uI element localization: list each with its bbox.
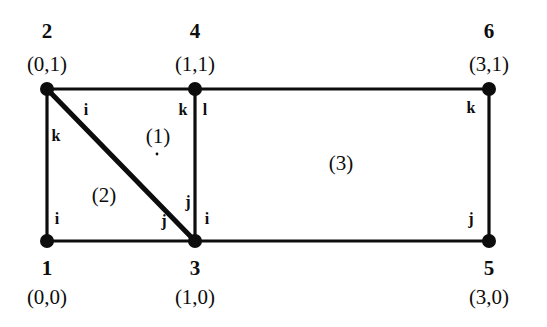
corner-node-label-k-el1: k (179, 102, 188, 118)
corner-node-label-j-el2: j (161, 213, 166, 229)
mesh-canvas (0, 0, 547, 327)
element-label-2: (2) (92, 185, 117, 206)
node-coordinate-3: (1,0) (175, 287, 215, 308)
node-dot (40, 234, 54, 248)
corner-node-label-i-el1: i (84, 102, 88, 118)
node-number-6: 6 (484, 21, 495, 42)
node-coordinate-2: (0,1) (27, 54, 67, 75)
page-speck-group (156, 153, 159, 156)
node-coordinate-6: (3,1) (469, 54, 509, 75)
corner-node-label-i-el3: i (205, 211, 209, 227)
node-number-3: 3 (190, 258, 201, 279)
element-label-3: (3) (329, 153, 354, 174)
corner-node-label-l-el3: l (203, 102, 207, 118)
node-dot-group (40, 82, 496, 248)
corner-node-label-k-el2: k (52, 128, 61, 144)
page-speck (156, 153, 159, 156)
corner-node-label-j-el3: j (468, 211, 473, 227)
element-label-1: (1) (146, 126, 171, 147)
node-number-2: 2 (42, 21, 53, 42)
node-dot (188, 234, 202, 248)
corner-node-label-j-el1: j (185, 194, 190, 210)
node-dot (482, 234, 496, 248)
node-number-5: 5 (484, 258, 495, 279)
node-dot (482, 82, 496, 96)
mesh-figure: 1(0,0)2(0,1)3(1,0)4(1,1)5(3,0)6(3,1)(1)(… (0, 0, 547, 327)
mesh-edge (47, 89, 195, 241)
corner-node-label-k-el3: k (467, 100, 476, 116)
node-dot (40, 82, 54, 96)
node-dot (188, 82, 202, 96)
node-coordinate-4: (1,1) (175, 54, 215, 75)
corner-node-label-i-el2: i (55, 211, 59, 227)
node-number-4: 4 (190, 21, 201, 42)
node-number-1: 1 (42, 258, 53, 279)
node-coordinate-5: (3,0) (469, 287, 509, 308)
node-coordinate-1: (0,0) (27, 287, 67, 308)
edge-group (47, 89, 489, 241)
